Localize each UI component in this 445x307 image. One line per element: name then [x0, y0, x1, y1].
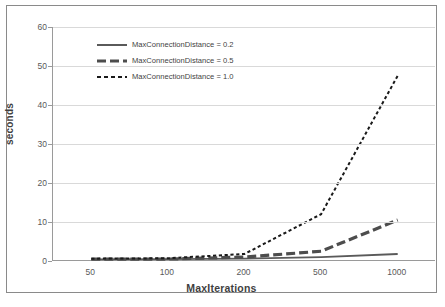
x-tick-label: 100: [147, 268, 187, 277]
gridline: [53, 144, 435, 145]
y-tick-mark: [48, 27, 52, 28]
figure-frame: seconds MaxIterations MaxConnectionDista…: [6, 5, 437, 293]
legend-item-2[interactable]: MaxConnectionDistance = 1.0: [97, 69, 297, 85]
y-tick-label: 50: [19, 62, 47, 71]
legend-label-2: MaxConnectionDistance = 1.0: [132, 73, 234, 81]
gridline: [53, 105, 435, 106]
y-axis-title: seconds: [4, 103, 15, 145]
x-tick-label: 1000: [377, 268, 417, 277]
y-tick-label: 10: [19, 218, 47, 227]
legend-item-1[interactable]: MaxConnectionDistance = 0.5: [97, 53, 297, 69]
x-tick-label: 50: [70, 268, 110, 277]
y-tick-mark: [48, 105, 52, 106]
legend-item-0[interactable]: MaxConnectionDistance = 0.2: [97, 37, 297, 53]
x-tick-label: 500: [300, 268, 340, 277]
y-tick-mark: [48, 261, 52, 262]
legend-label-0: MaxConnectionDistance = 0.2: [132, 41, 234, 49]
y-tick-mark: [48, 144, 52, 145]
legend-label-1: MaxConnectionDistance = 0.5: [132, 57, 234, 65]
y-tick-mark: [48, 66, 52, 67]
legend-line-solid-icon: [97, 40, 127, 50]
y-tick-label: 20: [19, 179, 47, 188]
x-tick-label: 200: [224, 268, 264, 277]
y-tick-mark: [48, 222, 52, 223]
legend-line-dashed-icon: [97, 56, 127, 66]
x-axis-title: MaxIterations: [7, 282, 436, 294]
gridline: [53, 222, 435, 223]
y-tick-label: 30: [19, 140, 47, 149]
y-tick-label: 40: [19, 101, 47, 110]
y-tick-mark: [48, 183, 52, 184]
gridline: [53, 27, 435, 28]
y-tick-label: 60: [19, 23, 47, 32]
series-line-2: [91, 76, 397, 259]
chart-figure: seconds MaxIterations MaxConnectionDista…: [0, 0, 445, 307]
gridline: [53, 183, 435, 184]
legend-line-dotted-icon: [97, 72, 127, 82]
y-tick-label: 0: [19, 257, 47, 266]
chart-legend: MaxConnectionDistance = 0.2 MaxConnectio…: [97, 37, 297, 85]
